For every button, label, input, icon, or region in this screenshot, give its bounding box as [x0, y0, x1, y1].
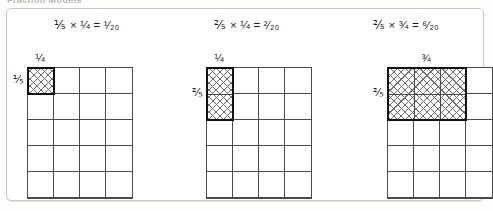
grid-cell	[259, 146, 285, 172]
grid-cell	[233, 120, 259, 146]
grid-cell	[28, 94, 54, 120]
grid-cell	[80, 146, 106, 172]
grid-cell	[233, 172, 259, 198]
grid-2	[206, 67, 312, 199]
grid-cell	[414, 172, 440, 198]
grid-cell	[466, 94, 492, 120]
grid-cell	[106, 68, 132, 94]
grid-cell	[414, 146, 440, 172]
grid-cell	[259, 94, 285, 120]
grid-row	[28, 68, 132, 94]
top-label-3: ¾	[387, 52, 465, 64]
grid-cell	[259, 172, 285, 198]
top-label-1: ¼	[27, 52, 53, 64]
grid-row	[207, 68, 311, 94]
grid-3	[387, 67, 493, 199]
grid-cell	[80, 94, 106, 120]
grid-row	[28, 120, 132, 146]
grid-row	[388, 94, 492, 120]
grid-cell	[54, 146, 80, 172]
figure-panel: ⅕ × ¼ = ¹⁄₂₀ ¼ ⅕ ⅖ × ¼ = ²⁄₂₀ ¼ ⅖ ⅖ × ¾ …	[6, 8, 484, 201]
grid-row	[207, 146, 311, 172]
left-label-1: ⅕	[9, 73, 24, 85]
grid-cell	[285, 94, 311, 120]
grid-cell	[414, 120, 440, 146]
grid-cell	[285, 146, 311, 172]
grid-row	[207, 172, 311, 198]
grid-cell	[440, 94, 466, 120]
grid-row	[207, 94, 311, 120]
grid-row	[388, 68, 492, 94]
area-model-1: ¼ ⅕	[27, 67, 133, 199]
grid-cell	[388, 94, 414, 120]
grid-cell	[388, 146, 414, 172]
grid-cell	[259, 120, 285, 146]
grid-cell	[414, 68, 440, 94]
grid-cell	[106, 146, 132, 172]
grid-cell	[285, 120, 311, 146]
grid-cell	[54, 68, 80, 94]
area-model-3: ¾ ⅖	[387, 67, 493, 199]
equation-3: ⅖ × ¾ = ⁶⁄₂₀	[327, 18, 485, 32]
grid-cell	[233, 94, 259, 120]
model-column-3: ⅖ × ¾ = ⁶⁄₂₀ ¾ ⅖	[327, 9, 485, 200]
grid-cell	[440, 68, 466, 94]
left-label-2: ⅖	[188, 86, 203, 98]
grid-cell	[54, 172, 80, 198]
grid-cell	[80, 68, 106, 94]
grid-cell	[466, 120, 492, 146]
grid-cell	[80, 172, 106, 198]
grid-cell	[54, 94, 80, 120]
grid-row	[207, 120, 311, 146]
grid-row	[388, 146, 492, 172]
grid-cell	[106, 120, 132, 146]
grid-cell	[233, 68, 259, 94]
grid-row	[28, 146, 132, 172]
grid-cell	[466, 172, 492, 198]
grid-cell	[207, 146, 233, 172]
grid-cell	[466, 146, 492, 172]
grid-cell	[28, 68, 54, 94]
grid-cell	[106, 94, 132, 120]
grid-cell	[207, 94, 233, 120]
grid-cell	[440, 172, 466, 198]
grid-cell	[54, 120, 80, 146]
grid-cell	[259, 68, 285, 94]
model-column-1: ⅕ × ¼ = ¹⁄₂₀ ¼ ⅕	[7, 9, 167, 200]
equation-2: ⅖ × ¼ = ²⁄₂₀	[167, 18, 327, 32]
grid-cell	[233, 146, 259, 172]
grid-cell	[106, 172, 132, 198]
grid-row	[388, 120, 492, 146]
grid-cell	[440, 146, 466, 172]
grid-cell	[28, 120, 54, 146]
grid-cell	[285, 68, 311, 94]
grid-cell	[80, 120, 106, 146]
grid-row	[388, 172, 492, 198]
grid-cell	[388, 120, 414, 146]
grid-cell	[28, 146, 54, 172]
clipped-header-text: Fraction Models	[7, 0, 127, 4]
area-model-2: ¼ ⅖	[206, 67, 312, 199]
grid-cell	[207, 172, 233, 198]
grid-1	[27, 67, 133, 199]
grid-cell	[466, 68, 492, 94]
model-column-2: ⅖ × ¼ = ²⁄₂₀ ¼ ⅖	[167, 9, 327, 200]
grid-row	[28, 172, 132, 198]
grid-cell	[207, 120, 233, 146]
grid-cell	[388, 68, 414, 94]
equation-1: ⅕ × ¼ = ¹⁄₂₀	[7, 18, 167, 32]
grid-cell	[207, 68, 233, 94]
left-label-3: ⅖	[369, 86, 384, 98]
grid-cell	[440, 120, 466, 146]
top-label-2: ¼	[206, 52, 232, 64]
grid-cell	[414, 94, 440, 120]
grid-row	[28, 94, 132, 120]
grid-cell	[388, 172, 414, 198]
grid-cell	[285, 172, 311, 198]
grid-cell	[28, 172, 54, 198]
